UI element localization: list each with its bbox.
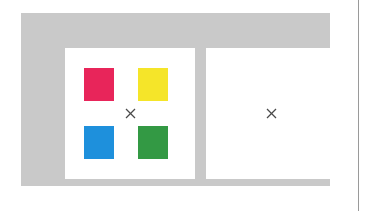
vertical-divider-rule [358,0,359,211]
display-frame [21,13,330,186]
color-square-top-right[interactable] [138,68,168,101]
color-square-bottom-right[interactable] [138,126,168,159]
fixation-cross-icon-right [206,48,336,179]
color-square-bottom-left[interactable] [84,126,114,159]
stimulus-panel-sample-array[interactable] [65,48,195,179]
stimulus-panel-blank-retention[interactable] [206,48,336,179]
color-square-top-left[interactable] [84,68,114,101]
stimulus-canvas [0,0,373,211]
